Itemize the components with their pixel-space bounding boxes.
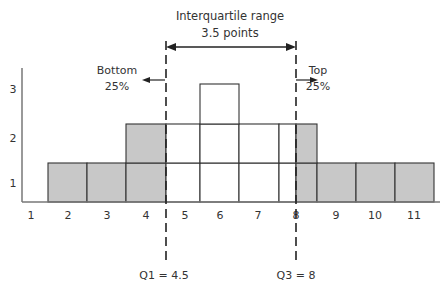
left-arrow-icon xyxy=(142,77,165,83)
block xyxy=(200,84,239,124)
x-tick: 10 xyxy=(368,209,382,222)
x-ticks: 1 2 3 4 5 6 7 8 9 10 11 xyxy=(28,209,422,222)
iqr-value: 3.5 points xyxy=(201,26,258,40)
y-tick: 2 xyxy=(10,132,17,145)
x-tick: 11 xyxy=(407,209,421,222)
block xyxy=(166,163,200,202)
shaded-block xyxy=(395,163,434,202)
shaded-block xyxy=(126,124,166,163)
block xyxy=(200,124,239,163)
x-tick: 9 xyxy=(333,209,340,222)
q1-label: Q1 = 4.5 xyxy=(139,269,188,282)
block xyxy=(279,163,296,202)
x-tick: 4 xyxy=(143,209,150,222)
shaded-block xyxy=(356,163,395,202)
x-tick: 1 xyxy=(28,209,35,222)
shaded-block xyxy=(126,163,166,202)
x-tick: 5 xyxy=(182,209,189,222)
bottom-label: Bottom xyxy=(97,64,137,77)
block xyxy=(279,124,296,163)
y-tick: 1 xyxy=(10,177,17,190)
shaded-block xyxy=(296,124,317,163)
iqr-double-arrow-icon xyxy=(166,43,296,51)
iqr-chart: Interquartile range 3.5 points Bottom 25… xyxy=(0,0,448,288)
iqr-title: Interquartile range xyxy=(176,9,284,23)
block xyxy=(166,124,200,163)
histogram-blocks xyxy=(48,84,434,202)
block xyxy=(239,163,279,202)
shaded-block xyxy=(87,163,126,202)
top-label: Top xyxy=(308,64,328,77)
shaded-block xyxy=(296,163,317,202)
bottom-pct: 25% xyxy=(105,80,129,93)
block xyxy=(239,124,279,163)
top-pct: 25% xyxy=(306,80,330,93)
shaded-block xyxy=(317,163,356,202)
y-tick: 3 xyxy=(10,83,17,96)
block xyxy=(200,163,239,202)
x-tick: 3 xyxy=(104,209,111,222)
x-tick: 7 xyxy=(255,209,262,222)
shaded-block xyxy=(48,163,87,202)
x-tick: 6 xyxy=(217,209,224,222)
x-tick: 2 xyxy=(65,209,72,222)
q3-label: Q3 = 8 xyxy=(277,269,316,282)
